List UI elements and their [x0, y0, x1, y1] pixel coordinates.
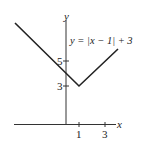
y-tick-label-3: 3 [57, 81, 63, 92]
y-tick-label-5: 5 [57, 56, 63, 67]
x-axis-label: x [117, 119, 122, 130]
x-tick-label-1: 1 [76, 129, 82, 140]
equation-label: y = |x − 1| + 3 [70, 36, 133, 47]
x-tick-label-3: 3 [102, 129, 108, 140]
graph-figure: y x y = |x − 1| + 3 1 3 5 3 [0, 0, 141, 148]
y-axis-label: y [64, 11, 69, 22]
